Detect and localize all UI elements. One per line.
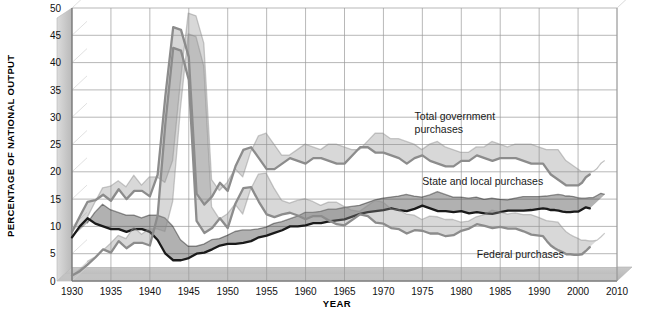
y-tick-label: 50 — [50, 3, 62, 14]
x-tick-label: 1975 — [411, 286, 434, 297]
x-tick-label: 2010 — [606, 286, 629, 297]
y-tick-label: 30 — [50, 112, 62, 123]
x-tick-label: 1980 — [450, 286, 473, 297]
x-tick-label: 1945 — [178, 286, 201, 297]
floor-slab-front — [57, 274, 617, 281]
x-tick-label: 1950 — [217, 286, 240, 297]
line-chart: 05101520253035404550 1930193519401945195… — [0, 0, 651, 317]
y-tick-label: 5 — [50, 248, 56, 259]
depth-connectors — [87, 0, 632, 8]
y-tick-label: 25 — [50, 139, 62, 150]
x-tick-labels: 1930193519401945195019551960196519701975… — [61, 286, 629, 297]
x-tick-label: 1985 — [489, 286, 512, 297]
x-tick-label: 1990 — [528, 286, 551, 297]
x-tick-label: 2000 — [567, 286, 590, 297]
y-tick-label: 45 — [50, 30, 62, 41]
back-wall-right-edge — [617, 0, 632, 8]
y-tick-label: 10 — [50, 221, 62, 232]
x-tick-label: 1935 — [100, 286, 123, 297]
annotation-total-line2: purchases — [415, 123, 463, 135]
y-tick-label: 0 — [50, 276, 56, 287]
annotation-state-local: State and local purchases — [422, 175, 543, 187]
x-tick-label: 1965 — [333, 286, 356, 297]
annotation-total-line1: Total government — [415, 110, 496, 122]
gridline-depth — [72, 0, 87, 8]
x-tick-label: 1930 — [61, 286, 84, 297]
x-tick-label: 1970 — [372, 286, 395, 297]
annotation-federal: Federal purchases — [477, 248, 564, 260]
y-tick-label: 20 — [50, 166, 62, 177]
x-tick-label: 1955 — [256, 286, 279, 297]
y-tick-label: 15 — [50, 194, 62, 205]
x-tick-label: 1960 — [294, 286, 317, 297]
y-axis-title: PERCENTAGE OF NATIONAL OUTPUT — [5, 55, 16, 237]
y-tick-label: 40 — [50, 57, 62, 68]
x-tick-label: 1940 — [139, 286, 162, 297]
chart-container: 05101520253035404550 1930193519401945195… — [0, 0, 651, 317]
y-tick-label: 35 — [50, 85, 62, 96]
x-axis-title: YEAR — [323, 298, 351, 309]
